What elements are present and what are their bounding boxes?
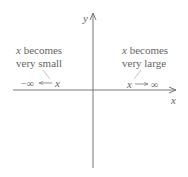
positive-infinity: ∞ — [151, 79, 158, 90]
left-annotation-line2: very small — [16, 58, 62, 69]
right-annotation-line2: very large — [122, 58, 166, 69]
left-annotation-line1: x becomes — [16, 45, 62, 56]
y-axis-label: y — [83, 13, 88, 24]
right-limit-variable: x — [127, 79, 132, 90]
left-limit-variable: x — [55, 78, 60, 89]
right-annotation-line1: x becomes — [122, 45, 168, 56]
x-axis-label: x — [171, 95, 176, 106]
negative-infinity: −∞ — [21, 78, 34, 89]
left-leader-line — [43, 70, 50, 79]
right-leader-line — [134, 70, 141, 79]
